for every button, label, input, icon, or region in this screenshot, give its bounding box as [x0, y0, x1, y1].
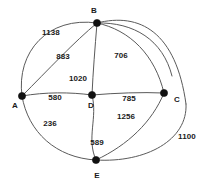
edge-b-outer-long — [97, 23, 172, 76]
weighted-graph-diagram: 1138883706102058078523658912561100 ABCDE — [0, 0, 209, 186]
graph-node-b — [93, 19, 100, 26]
edge-weight-a-e-236: 236 — [43, 120, 57, 128]
edge-weight-b-c-706: 706 — [114, 52, 128, 60]
edge-e-c-outer — [96, 104, 186, 160]
edge-weight-a-b-883: 883 — [56, 53, 70, 61]
edge-a-e — [22, 96, 96, 160]
graph-node-c — [160, 89, 167, 96]
edge-weight-e-c-1256: 1256 — [117, 113, 135, 121]
edge-b-d — [92, 23, 97, 95]
node-label-d: D — [88, 102, 94, 110]
edge-weight-e-c-1100: 1100 — [178, 133, 196, 141]
edge-weight-b-d-1020: 1020 — [69, 75, 87, 83]
edge-b-c-outer-top — [97, 20, 186, 104]
node-label-e: E — [94, 172, 99, 180]
edge-b-c-arc — [97, 23, 164, 93]
graph-canvas — [0, 0, 209, 186]
edge-weight-d-c-785: 785 — [122, 95, 136, 103]
node-label-c: C — [174, 96, 180, 104]
edge-weight-d-e-589: 589 — [90, 139, 104, 147]
graph-node-d — [88, 91, 95, 98]
node-label-b: B — [91, 7, 97, 15]
graph-node-a — [18, 92, 25, 99]
edge-weight-a-d-580: 580 — [48, 94, 62, 102]
graph-node-e — [92, 156, 99, 163]
node-label-a: A — [12, 102, 18, 110]
edge-weight-a-b-1138: 1138 — [42, 29, 60, 37]
